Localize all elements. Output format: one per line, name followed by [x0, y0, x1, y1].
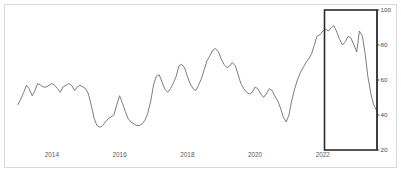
x-tick-label: 2014 — [45, 152, 59, 158]
chart-figure: 10080604020 20142016201820202022 — [0, 0, 401, 172]
y-tick-label: 60 — [381, 77, 388, 83]
plot-area — [0, 0, 401, 172]
data-line-series-1 — [18, 26, 377, 128]
y-tick-label: 100 — [381, 7, 391, 13]
y-tick-label: 20 — [381, 147, 388, 153]
y-tick-label: 80 — [381, 42, 388, 48]
x-tick-label: 2016 — [112, 152, 126, 158]
x-tick-label: 2018 — [180, 152, 194, 158]
highlight-rectangle-annotation — [325, 10, 378, 150]
y-tick-label: 40 — [381, 112, 388, 118]
x-tick-label: 2022 — [316, 152, 330, 158]
x-tick-label: 2020 — [248, 152, 262, 158]
